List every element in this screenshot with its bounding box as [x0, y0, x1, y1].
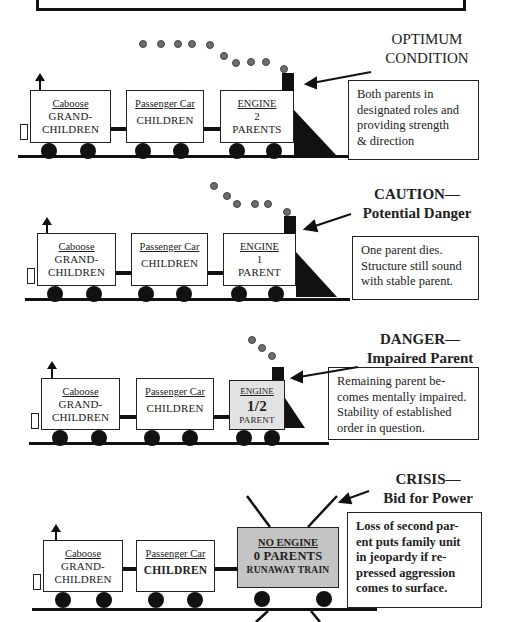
arrow-icon	[340, 491, 369, 503]
cowcatcher-icon	[285, 398, 305, 428]
cowcatcher-icon	[294, 110, 336, 155]
arrow-icon	[305, 214, 351, 231]
arrow-icon	[306, 72, 371, 88]
cowcatcher-icon	[296, 252, 337, 297]
diagram-overlay	[0, 0, 508, 622]
crisis-burst-lines	[247, 496, 337, 622]
arrow-icon	[292, 367, 358, 382]
